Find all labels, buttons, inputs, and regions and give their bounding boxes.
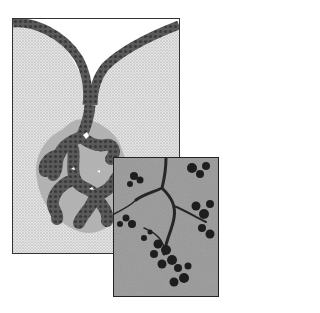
micrograph-inset: [113, 157, 219, 297]
micrograph-image: [114, 158, 217, 295]
